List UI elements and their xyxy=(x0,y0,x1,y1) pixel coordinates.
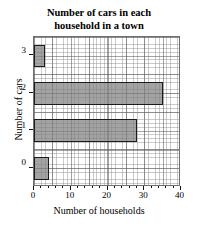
x-tick-label-30: 30 xyxy=(131,190,155,200)
x-tick-minor xyxy=(99,186,100,188)
y-tick-label-3: 3 xyxy=(14,45,26,55)
x-tick-minor xyxy=(92,186,93,188)
x-tick-minor xyxy=(62,186,63,188)
x-tick-minor xyxy=(129,186,130,188)
chart-title-line-2: household in a town xyxy=(14,20,184,33)
x-tick-minor xyxy=(158,186,159,188)
plot-area xyxy=(33,36,180,186)
bar-chart-figure: Number of cars in each household in a to… xyxy=(0,0,198,238)
chart-title: Number of cars in each household in a to… xyxy=(14,7,184,32)
y-tick-2 xyxy=(29,92,33,93)
x-tick-minor xyxy=(84,186,85,188)
x-tick-minor xyxy=(114,186,115,188)
bar-cars-0 xyxy=(34,157,49,180)
x-tick-minor xyxy=(165,186,166,188)
x-tick-minor xyxy=(48,186,49,188)
bar-cars-2 xyxy=(34,82,163,105)
x-tick-label-0: 0 xyxy=(21,190,45,200)
y-tick-3 xyxy=(29,54,33,55)
x-tick-label-20: 20 xyxy=(95,190,119,200)
bar-cars-3 xyxy=(34,45,45,67)
x-tick-minor xyxy=(77,186,78,188)
x-axis-label: Number of households xyxy=(14,205,184,216)
x-tick-label-10: 10 xyxy=(58,190,82,200)
x-tick-minor xyxy=(151,186,152,188)
chart-title-line-1: Number of cars in each xyxy=(47,7,151,18)
y-axis-label: Number of cars xyxy=(13,55,24,165)
x-tick-minor xyxy=(40,186,41,188)
x-tick-label-40: 40 xyxy=(168,190,192,200)
x-tick-minor xyxy=(136,186,137,188)
bar-cars-1 xyxy=(34,119,137,142)
y-tick-1 xyxy=(29,129,33,130)
y-tick-0 xyxy=(29,167,33,168)
x-tick-minor xyxy=(55,186,56,188)
x-tick-minor xyxy=(121,186,122,188)
x-tick-minor xyxy=(173,186,174,188)
